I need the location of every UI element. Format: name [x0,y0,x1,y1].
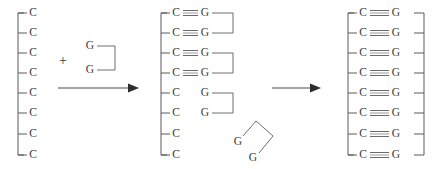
residue-label-C: C [29,148,37,160]
residue-label-C: C [359,106,367,118]
dimer-residue-G: G [86,63,94,75]
residue-label-C: C [359,26,367,38]
residue-label-C: C [29,86,37,98]
dimer-linker-bracket-bound-2 [212,53,233,73]
dimer-residue-G: G [86,39,94,51]
residue-label-C: C [29,66,37,78]
residue-label-C: C [29,127,37,139]
dimer-linker-bracket [97,46,115,70]
residue-label-G: G [392,66,400,78]
residue-label-G: G [392,6,400,18]
residue-label-C: C [359,6,367,18]
hydrogen-bonds-2 [183,11,198,76]
residue-label-C: C [359,46,367,58]
reaction-arrow-first-step [58,84,139,93]
reaction-arrow-second-step [272,84,321,93]
residue-label-G: G [392,46,400,58]
residue-label-C: C [172,148,180,160]
residue-label-G: G [392,86,400,98]
residue-label-G: G [392,148,400,160]
arrow-head [128,84,139,93]
residue-label-C: C [172,86,180,98]
residue-label-C: C [29,106,37,118]
paired-guanines-2: G G G G [201,6,209,78]
residue-label-C: C [359,66,367,78]
residue-label-C: C [172,26,180,38]
residue-label-C: C [172,106,180,118]
residue-label-C: C [29,6,37,18]
residue-label-C: C [172,6,180,18]
residue-label-C: C [172,46,180,58]
duplex-rows-3: C G C G C G C G [348,6,424,160]
template-residues-1: C C C C C C C C [18,6,37,160]
panel-product: C G C G C G C G [348,6,424,160]
residue-label-C: C [359,86,367,98]
residue-label-G: G [201,6,209,18]
residue-label-C: C [359,127,367,139]
template-residues-2: C C C C C C C C [161,6,180,160]
residue-label-C: C [172,66,180,78]
residue-label-G: G [201,86,209,98]
plus-symbol: + [59,53,67,68]
residue-label-G: G [201,66,209,78]
residue-label-C: C [172,127,180,139]
residue-label-C: C [29,26,37,38]
dimer-residue-G: G [249,151,257,163]
residue-label-C: C [359,148,367,160]
dimer-linker-bracket-rotated [243,121,273,153]
dimer-linker-bracket-bound-1 [212,13,233,33]
residue-label-G: G [392,106,400,118]
panel-intermediate: C C C C C C C C G G G G [161,6,321,163]
residue-label-G: G [201,106,209,118]
free-dimer-GG-rotated: G G [234,121,273,163]
dimer-residue-G: G [234,135,242,147]
panel-reactants: C C C C C C C C + G G [18,6,139,160]
figure-canvas: C C C C C C C C + G G [0,0,435,169]
dimer-linker-bracket-unbound [212,93,233,113]
residue-label-G: G [392,127,400,139]
residue-label-G: G [392,26,400,38]
free-dimer-GG-upright: G G [86,39,115,75]
reaction-scheme-svg: C C C C C C C C + G G [0,0,435,169]
residue-label-G: G [201,46,209,58]
arrow-head [310,84,321,93]
free-dimer-GG-docked: G G [201,86,233,118]
residue-label-G: G [201,26,209,38]
residue-label-C: C [29,46,37,58]
